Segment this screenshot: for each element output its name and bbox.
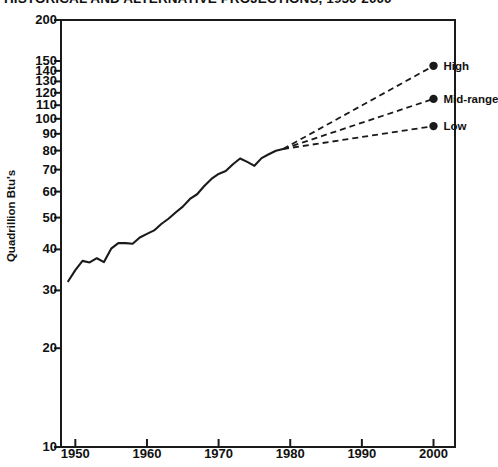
x-tick-label: 1990	[332, 447, 392, 461]
y-tick-label: 80	[15, 144, 57, 157]
y-axis-tick-labels: 102030405060708090100110120130140150200	[0, 0, 57, 467]
endpoint-dot-low	[429, 122, 437, 130]
x-tick-label: 1970	[189, 447, 249, 461]
y-tick-label: 90	[15, 127, 57, 140]
series-label-low: Low	[444, 120, 467, 132]
x-tick-label: 2000	[404, 447, 464, 461]
endpoint-dot-high	[429, 62, 437, 70]
plot-frame	[61, 20, 455, 447]
series-line-historical	[68, 149, 283, 281]
y-tick-label: 40	[15, 242, 57, 255]
y-tick-label: 100	[15, 112, 57, 125]
series-label-high: High	[444, 60, 470, 72]
x-tick-label: 1950	[45, 447, 105, 461]
series-line-high	[283, 66, 433, 149]
series-label-mid-range: Mid-range	[444, 93, 498, 105]
series-endpoint-markers	[429, 62, 437, 131]
y-tick-label: 60	[15, 185, 57, 198]
x-tick-label: 1960	[117, 447, 177, 461]
axis-tick-marks	[54, 20, 434, 447]
y-tick-label: 50	[15, 211, 57, 224]
y-tick-label: 70	[15, 163, 57, 176]
y-tick-label: 150	[15, 54, 57, 67]
y-tick-label: 20	[15, 341, 57, 354]
series-line-mid-range	[283, 99, 433, 149]
chart-title: HISTORICAL AND ALTERNATIVE PROJECTIONS, …	[4, 0, 470, 7]
endpoint-dot-mid-range	[429, 95, 437, 103]
y-tick-label: 30	[15, 283, 57, 296]
data-series-group	[68, 66, 433, 281]
x-tick-label: 1980	[260, 447, 320, 461]
y-tick-label: 110	[15, 98, 57, 111]
x-axis-tick-labels: 195019601970198019902000	[0, 447, 474, 467]
y-tick-label: 200	[15, 13, 57, 26]
